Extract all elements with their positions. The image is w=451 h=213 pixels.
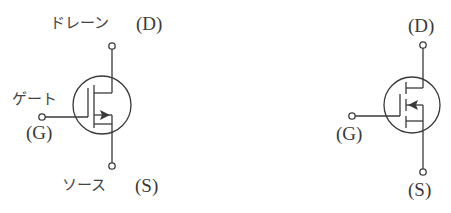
left-drain-label-jp: ドレーン: [50, 16, 109, 31]
left-source-label: (S): [135, 176, 158, 195]
right-mosfet-symbol: [349, 42, 440, 175]
right-gate-terminal: [349, 113, 355, 119]
right-source-label: (S): [408, 180, 431, 199]
left-drain-terminal: [109, 43, 115, 49]
right-gate-label: (G): [336, 124, 362, 143]
left-source-label-jp: ソース: [62, 178, 106, 193]
left-gate-label: (G): [26, 123, 52, 142]
mosfet-diagram: ドレーン (D) ゲート (G) ソース (S) (D) (G) (S): [0, 0, 451, 213]
right-drain-label: (D): [408, 16, 434, 35]
left-gate-terminal: [39, 114, 45, 120]
left-gate-label-jp: ゲート: [12, 92, 57, 107]
right-drain-terminal: [420, 42, 426, 48]
left-transistor-envelope: [73, 76, 131, 134]
left-source-terminal: [109, 163, 115, 169]
right-source-terminal: [420, 169, 426, 175]
left-drain-label: (D): [136, 14, 162, 33]
